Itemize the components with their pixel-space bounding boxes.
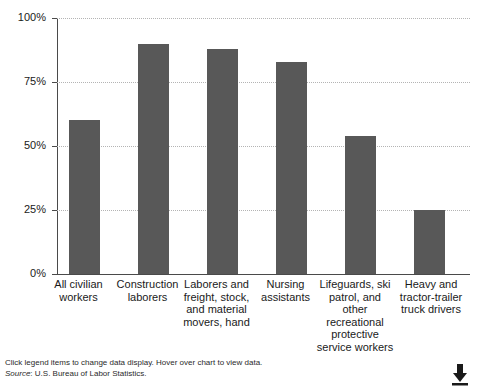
y-axis-tick-label: 75% <box>0 76 46 87</box>
x-axis-label-line: service workers <box>315 341 395 354</box>
x-axis-label-line: patrol, and <box>315 291 395 304</box>
x-axis-label-line: assistants <box>248 291 323 304</box>
gridline-100 <box>57 18 470 19</box>
y-axis-tick-label: 50% <box>0 140 46 151</box>
x-axis-label-line: tractor-trailer <box>391 291 471 304</box>
gridline-50 <box>57 146 470 147</box>
y-axis-labels: 100% 75% 50% 25% 0% <box>0 0 48 391</box>
bar[interactable] <box>414 210 445 274</box>
footer-source-label: Source <box>5 369 30 378</box>
x-axis-label-line: Nursing <box>248 278 323 291</box>
download-icon[interactable] <box>449 363 471 387</box>
x-axis-label-line: All civilian <box>41 278 116 291</box>
x-axis-label-line: laborers <box>110 291 185 304</box>
footer-source-text: : U.S. Bureau of Labor Statistics. <box>30 369 146 378</box>
x-axis-category-label: Nursing assistants <box>248 278 323 303</box>
gridline-75 <box>57 82 470 83</box>
plot-area[interactable] <box>57 18 470 274</box>
x-axis-label-line: Heavy and <box>391 278 471 291</box>
x-axis-category-label: Heavy and tractor-trailer truck drivers <box>391 278 471 316</box>
bar[interactable] <box>207 49 238 274</box>
bar[interactable] <box>276 62 307 274</box>
gridline-25 <box>57 210 470 211</box>
x-axis-category-label: All civilian workers <box>41 278 116 303</box>
chart-footer: Click legend items to change data displa… <box>5 358 425 379</box>
bar[interactable] <box>345 136 376 274</box>
x-axis-label-line: Lifeguards, ski <box>315 278 395 291</box>
x-axis-label-line: movers, hand <box>179 316 254 329</box>
x-axis-label-line: other <box>315 303 395 316</box>
bar[interactable] <box>69 120 100 274</box>
x-axis-label-line: freight, stock, <box>179 291 254 304</box>
footer-source: Source: U.S. Bureau of Labor Statistics. <box>5 369 425 380</box>
x-axis-category-label: Laborers and freight, stock, and materia… <box>179 278 254 328</box>
y-axis-tick-label: 100% <box>0 12 46 23</box>
x-axis-category-label: Construction laborers <box>110 278 185 303</box>
x-axis-labels: All civilian workers Construction labore… <box>57 278 470 358</box>
x-axis-label-line: truck drivers <box>391 303 471 316</box>
x-axis-label-line: protective <box>315 328 395 341</box>
bar-chart-widget: 100% 75% 50% 25% 0% All civilian workers… <box>0 0 477 391</box>
x-axis-label-line: Construction <box>110 278 185 291</box>
x-axis-label-line: workers <box>41 291 116 304</box>
axis-baseline <box>57 274 470 275</box>
footer-hint: Click legend items to change data displa… <box>5 358 425 369</box>
x-axis-label-line: Laborers and <box>179 278 254 291</box>
y-axis-tick-label: 0% <box>0 268 46 279</box>
x-axis-label-line: and material <box>179 303 254 316</box>
x-axis-category-label: Lifeguards, ski patrol, and other recrea… <box>315 278 395 354</box>
x-axis-label-line: recreational <box>315 316 395 329</box>
bar[interactable] <box>138 44 169 274</box>
y-axis-tick-label: 25% <box>0 204 46 215</box>
